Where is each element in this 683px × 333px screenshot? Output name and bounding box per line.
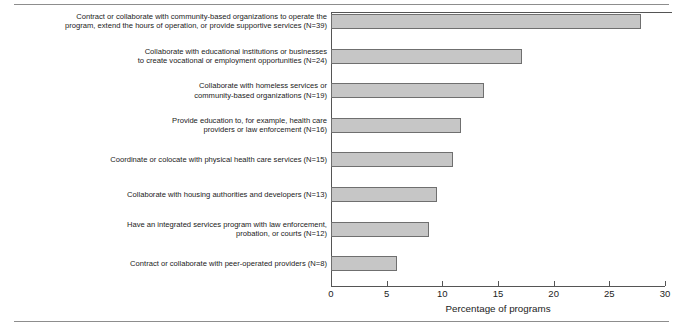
x-tick (331, 281, 332, 286)
x-tick (387, 281, 388, 286)
bar (331, 152, 453, 167)
x-tick-label: 20 (539, 288, 569, 299)
category-label-column: Contract or collaborate with community-b… (8, 0, 327, 290)
category-label: Collaborate with housing authorities and… (8, 190, 327, 200)
category-label: Coordinate or colocate with physical hea… (8, 155, 327, 165)
bar (331, 222, 429, 237)
x-tick-label: 0 (316, 288, 346, 299)
category-label: Collaborate with homeless services or co… (8, 81, 327, 100)
x-tick-label: 15 (483, 288, 513, 299)
x-tick-label: 25 (594, 288, 624, 299)
category-label: Have an integrated services program with… (8, 220, 327, 239)
x-tick-label: 30 (650, 288, 680, 299)
x-tick (442, 281, 443, 286)
x-tick (554, 281, 555, 286)
bar (331, 118, 461, 133)
x-tick (498, 281, 499, 286)
category-label: Contract or collaborate with peer-operat… (8, 259, 327, 269)
category-label: Collaborate with educational institution… (8, 47, 327, 66)
bar (331, 49, 522, 64)
plot-area (331, 13, 672, 287)
bar (331, 14, 641, 29)
x-tick (609, 281, 610, 286)
x-axis-title: Percentage of programs (331, 303, 665, 314)
bar (331, 83, 484, 98)
x-tick-label: 10 (427, 288, 457, 299)
x-tick-label: 5 (372, 288, 402, 299)
x-tick (665, 281, 666, 286)
category-label: Provide education to, for example, healt… (8, 116, 327, 135)
bar (331, 187, 437, 202)
category-label: Contract or collaborate with community-b… (8, 12, 327, 31)
bar (331, 256, 397, 271)
bar-chart-figure: Contract or collaborate with community-b… (0, 0, 683, 333)
